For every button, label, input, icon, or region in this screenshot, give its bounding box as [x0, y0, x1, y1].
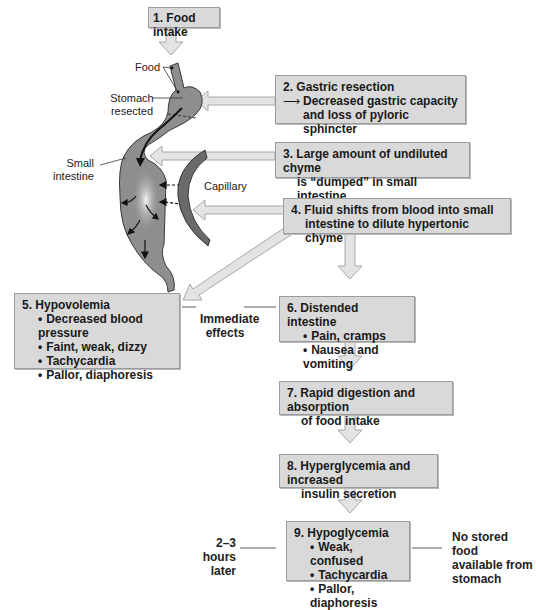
- list-item: Tachycardia: [22, 354, 172, 368]
- step-5-hypovolemia: 5. Hypovolemia Decreased blood pressure …: [14, 293, 180, 369]
- small-intestine-label: Small intestine: [50, 157, 94, 183]
- arrow-3-left: [150, 146, 275, 166]
- step-9-hypoglycemia: 9. Hypoglycemia Weak, confused Tachycard…: [286, 521, 410, 581]
- step-8-hyperglycemia: 8. Hyperglycemia and increased insulin s…: [279, 454, 438, 488]
- list-item: Weak, confused: [294, 540, 402, 568]
- list-item: Decreased blood pressure: [22, 312, 172, 340]
- later-label: 2–3 hours later: [186, 536, 236, 578]
- step-1-food-intake: 1. Food intake: [148, 7, 220, 28]
- list-item: Pallor, diaphoresis: [294, 582, 402, 610]
- immediate-effects-label: Immediate effects: [200, 312, 250, 340]
- step-7-rapid-digestion: 7. Rapid digestion and absorption of foo…: [279, 381, 453, 415]
- no-stored-food-label: No stored food available from stomach: [452, 530, 536, 586]
- list-item: Nausea and vomiting: [287, 343, 407, 371]
- capillary-label: Capillary: [204, 180, 247, 193]
- step-2-gastric-resection: 2. Gastric resection ⟶ Decreased gastric…: [275, 75, 466, 124]
- list-item: Faint, weak, dizzy: [22, 340, 172, 354]
- arrow-4-left: [193, 200, 285, 220]
- arrow-right-icon: ⟶: [283, 94, 300, 108]
- step-6-distended-intestine: 6. Distended intestine Pain, cramps Naus…: [279, 296, 415, 342]
- arrow-2-left: [196, 91, 275, 111]
- step-3-chyme-dumped: 3. Large amount of undiluted chyme is “d…: [275, 142, 470, 178]
- food-label: Food: [135, 61, 160, 74]
- list-item: Tachycardia: [294, 568, 402, 582]
- list-item: Pain, cramps: [287, 329, 407, 343]
- step-4-fluid-shift: 4. Fluid shifts from blood into small in…: [283, 198, 511, 234]
- stomach-resected-label: Stomach resected: [108, 92, 156, 118]
- list-item: Pallor, diaphoresis: [22, 368, 172, 382]
- capillary-shape: [178, 150, 210, 246]
